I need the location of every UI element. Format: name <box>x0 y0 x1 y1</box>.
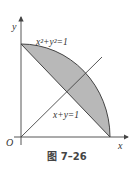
circle-equation-label: x²+y²=1 <box>35 37 68 47</box>
origin-label: O <box>6 137 13 148</box>
line-equation-label: x+y=1 <box>52 110 79 120</box>
figure-caption: 图 7–26 <box>0 148 134 163</box>
y-axis-label: y <box>11 21 17 32</box>
